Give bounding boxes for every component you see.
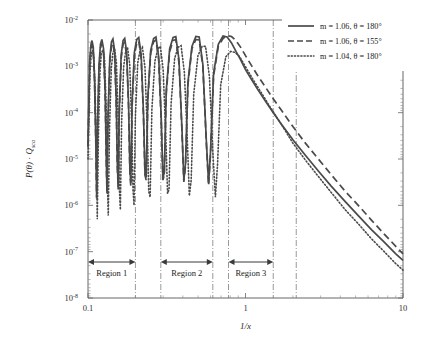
y-tick-label-0: 10-2 xyxy=(65,15,79,25)
y-tick-label-3: 10-5 xyxy=(65,154,79,164)
chart-canvas: 10-210-310-410-510-610-710-80.1110Region… xyxy=(0,0,426,344)
region-label-3: Region 3 xyxy=(235,268,266,278)
y-tick-label-4: 10-6 xyxy=(65,200,79,210)
y-tick-label-1: 10-3 xyxy=(65,61,79,71)
region-label-2: Region 2 xyxy=(171,268,202,278)
x-tick-label-2: 10 xyxy=(399,303,408,313)
legend-label-1: m = 1.06, θ = 180° xyxy=(320,22,382,31)
legend-label-3: m = 1.04, θ = 180° xyxy=(320,52,382,61)
x-tick-label-0: 0.1 xyxy=(83,303,94,313)
y-axis-title: P(θ) · Qsca xyxy=(24,140,36,179)
figure-container: 10-210-310-410-510-610-710-80.1110Region… xyxy=(0,0,426,344)
y-tick-label-5: 10-7 xyxy=(65,246,79,256)
region-label-1: Region 1 xyxy=(96,268,127,278)
x-axis-title: 1/x xyxy=(240,321,251,331)
y-tick-label-6: 10-8 xyxy=(65,293,79,303)
x-tick-label-1: 1 xyxy=(243,303,247,313)
legend-label-2: m = 1.06, θ = 155° xyxy=(320,37,382,46)
y-tick-label-2: 10-4 xyxy=(65,107,79,117)
